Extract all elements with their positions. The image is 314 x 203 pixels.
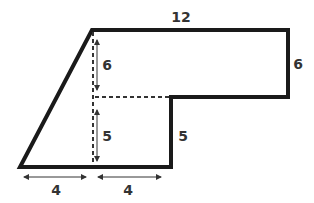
- label-upper-height: 6: [102, 57, 112, 73]
- label-bottom-left: 4: [51, 182, 61, 198]
- label-inner-step: 5: [178, 128, 188, 144]
- label-lower-height: 5: [102, 128, 112, 144]
- shape-outline: [20, 30, 288, 167]
- composite-shape-diagram: 12 6 5 6 5 4 4: [0, 0, 314, 203]
- label-right: 6: [293, 56, 303, 72]
- label-bottom-right: 4: [123, 182, 133, 198]
- label-top: 12: [171, 9, 190, 25]
